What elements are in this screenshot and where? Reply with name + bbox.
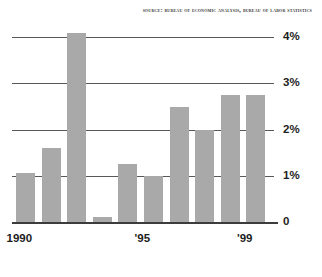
bar-1990 <box>16 173 35 222</box>
bar-1998 <box>221 95 240 222</box>
gridline-4% <box>12 37 274 38</box>
x-axis-tick-label: '99 <box>237 233 253 245</box>
y-axis-tick-label: 2% <box>283 124 300 136</box>
axis-baseline <box>12 222 278 224</box>
y-axis-tick-label: 0 <box>283 216 289 228</box>
plot-area: 01%2%3%4%1990'95'99 <box>0 0 322 277</box>
bar-1994 <box>118 164 137 222</box>
bar-1995 <box>144 176 163 222</box>
x-axis-tick-label: '95 <box>135 233 151 245</box>
y-axis-tick-label: 1% <box>283 170 300 182</box>
bar-1997 <box>195 130 214 222</box>
bar-1991 <box>42 148 61 222</box>
bar-1992 <box>67 33 86 222</box>
x-axis-tick-label: 1990 <box>7 233 33 245</box>
y-axis-tick-label: 3% <box>283 78 300 90</box>
gridline-3% <box>12 83 274 84</box>
bar-1993 <box>93 217 112 222</box>
bar-1996 <box>170 107 189 223</box>
chart-figure: Source: Bureau of Economic Analysis, Bur… <box>0 0 322 277</box>
bar-1999 <box>246 95 265 222</box>
y-axis-tick-label: 4% <box>283 31 300 43</box>
